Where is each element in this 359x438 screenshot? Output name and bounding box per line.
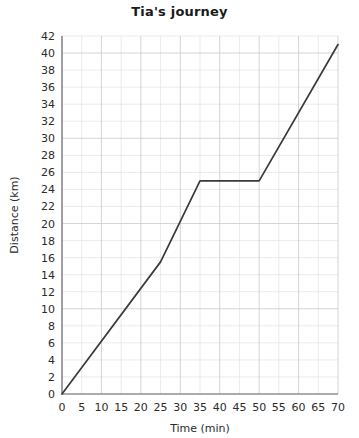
y-tick-label: 6 <box>48 337 55 350</box>
y-tick-label: 18 <box>41 235 55 248</box>
y-tick-label: 12 <box>41 286 55 299</box>
y-tick-label: 8 <box>48 320 55 333</box>
y-axis-tick-labels: 024681012141618202224262830323436384042 <box>41 30 55 401</box>
minor-gridlines <box>62 36 338 394</box>
y-tick-label: 24 <box>41 183 55 196</box>
plot-area: 024681012141618202224262830323436384042 … <box>0 0 359 438</box>
x-tick-label: 20 <box>134 401 148 414</box>
y-tick-label: 34 <box>41 98 55 111</box>
x-tick-label: 35 <box>193 401 207 414</box>
y-tick-label: 4 <box>48 354 55 367</box>
x-tick-label: 65 <box>311 401 325 414</box>
y-tick-label: 2 <box>48 371 55 384</box>
x-tick-label: 30 <box>173 401 187 414</box>
x-axis-title: Time (min) <box>169 422 230 435</box>
x-tick-label: 5 <box>78 401 85 414</box>
x-tick-label: 60 <box>292 401 306 414</box>
x-tick-label: 0 <box>59 401 66 414</box>
y-tick-label: 32 <box>41 115 55 128</box>
y-tick-label: 16 <box>41 252 55 265</box>
x-tick-label: 10 <box>94 401 108 414</box>
x-tick-label: 50 <box>252 401 266 414</box>
y-tick-label: 42 <box>41 30 55 43</box>
y-tick-label: 20 <box>41 218 55 231</box>
y-tick-label: 22 <box>41 200 55 213</box>
y-tick-label: 40 <box>41 47 55 60</box>
y-tick-label: 26 <box>41 166 55 179</box>
y-tick-label: 36 <box>41 81 55 94</box>
x-tick-label: 15 <box>114 401 128 414</box>
x-tick-label: 55 <box>272 401 286 414</box>
x-tick-label: 25 <box>154 401 168 414</box>
y-tick-label: 30 <box>41 132 55 145</box>
y-tick-label: 10 <box>41 303 55 316</box>
y-tick-label: 14 <box>41 269 55 282</box>
x-tick-label: 70 <box>331 401 345 414</box>
x-tick-label: 40 <box>213 401 227 414</box>
x-tick-label: 45 <box>232 401 246 414</box>
x-axis-tick-labels: 0510152025303540455055606570 <box>59 401 346 414</box>
distance-time-chart: Tia's journey 02468101214161820222426283… <box>0 0 359 438</box>
y-axis-title: Distance (km) <box>8 176 21 253</box>
y-tick-label: 28 <box>41 149 55 162</box>
y-tick-label: 38 <box>41 64 55 77</box>
y-tick-label: 0 <box>48 388 55 401</box>
